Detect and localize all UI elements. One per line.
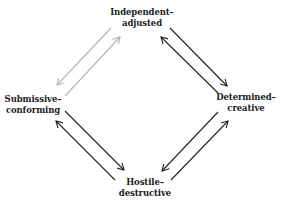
node-label-line1: Determined–: [216, 92, 276, 103]
arrow-right-to-bottom: [162, 112, 218, 171]
node-label-line2: destructive: [119, 188, 171, 199]
node-label-line2: conforming: [5, 105, 62, 116]
arrow-left-to-top: [65, 37, 120, 96]
arrow-bottom-to-left: [56, 121, 115, 180]
arrow-top-to-right: [170, 28, 227, 86]
node-label-line2: adjusted: [110, 18, 174, 29]
node-determined-creative: Determined– creative: [216, 92, 276, 114]
arrow-left-to-bottom: [65, 111, 124, 170]
arrow-top-to-left: [57, 28, 111, 85]
node-submissive-conforming: Submissive– conforming: [5, 94, 62, 116]
node-label-line2: creative: [216, 103, 276, 114]
node-label-line1: Hostile–: [119, 177, 171, 188]
arrow-bottom-to-right: [171, 121, 228, 180]
node-label-line1: Independent–: [110, 7, 174, 18]
node-independent-adjusted: Independent– adjusted: [110, 7, 174, 29]
node-label-line1: Submissive–: [5, 94, 62, 105]
diagram-canvas: Independent– adjusted Submissive– confor…: [0, 0, 282, 203]
node-hostile-destructive: Hostile– destructive: [119, 177, 171, 199]
arrow-right-to-top: [161, 37, 218, 93]
